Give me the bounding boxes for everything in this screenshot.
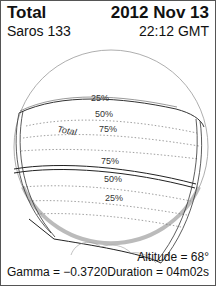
altitude-value: Altitude = 68°: [137, 250, 209, 264]
eclipse-time: 22:12 GMT: [139, 23, 209, 39]
saros-number: Saros 133: [7, 23, 71, 39]
south-50-label: 50%: [104, 174, 122, 184]
eclipse-type: Total: [7, 3, 46, 23]
gamma-value: Gamma = −0.3720: [7, 265, 107, 279]
eclipse-map-panel: 25% 50% 75% Total 75% 50% 25% Total 2012…: [0, 0, 216, 286]
north-75-label: 75%: [99, 124, 117, 134]
north-25-label: 25%: [91, 93, 109, 103]
north-50-label: 50%: [95, 109, 113, 119]
south-25-label: 25%: [105, 193, 123, 203]
duration-value: Duration = 04m02s: [107, 265, 209, 279]
eclipse-date: 2012 Nov 13: [111, 3, 209, 23]
globe-map: 25% 50% 75% Total 75% 50% 25%: [1, 1, 216, 286]
south-75-label: 75%: [101, 156, 119, 166]
